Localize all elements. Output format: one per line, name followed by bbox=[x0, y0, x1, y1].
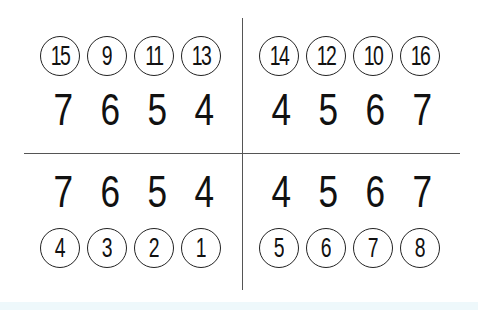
bottom-left-digit-row: 7 6 5 4 bbox=[40, 170, 228, 214]
digit: 5 bbox=[305, 88, 352, 132]
top-left-circled-row: 15 9 11 13 bbox=[40, 36, 228, 76]
circled-number: 15 bbox=[40, 36, 80, 76]
circled-number: 1 bbox=[181, 228, 221, 268]
digit: 5 bbox=[134, 170, 181, 214]
bottom-right-circled-row: 5 6 7 8 bbox=[259, 228, 447, 268]
circled-number: 13 bbox=[181, 36, 221, 76]
top-right-digit-row: 4 5 6 7 bbox=[258, 88, 446, 132]
digit: 4 bbox=[181, 88, 228, 132]
top-right-circled-row: 14 12 10 16 bbox=[259, 36, 447, 76]
digit: 5 bbox=[305, 170, 352, 214]
circled-number: 16 bbox=[400, 36, 440, 76]
digit: 6 bbox=[87, 170, 134, 214]
digit: 7 bbox=[40, 88, 87, 132]
circled-number: 10 bbox=[353, 36, 393, 76]
digit: 7 bbox=[399, 170, 446, 214]
digit: 7 bbox=[399, 88, 446, 132]
circled-number: 11 bbox=[134, 36, 174, 76]
circled-number: 4 bbox=[40, 228, 80, 268]
circled-number: 7 bbox=[353, 228, 393, 268]
horizontal-divider bbox=[24, 153, 460, 154]
vertical-divider bbox=[242, 18, 243, 290]
bottom-right-digit-row: 4 5 6 7 bbox=[258, 170, 446, 214]
digit: 4 bbox=[258, 170, 305, 214]
top-left-digit-row: 7 6 5 4 bbox=[40, 88, 228, 132]
circled-number: 3 bbox=[87, 228, 127, 268]
digit: 6 bbox=[352, 88, 399, 132]
bottom-strip bbox=[0, 302, 478, 310]
circled-number: 12 bbox=[306, 36, 346, 76]
circled-number: 6 bbox=[306, 228, 346, 268]
digit: 4 bbox=[181, 170, 228, 214]
circled-number: 2 bbox=[134, 228, 174, 268]
digit: 7 bbox=[40, 170, 87, 214]
digit: 6 bbox=[352, 170, 399, 214]
circled-number: 14 bbox=[259, 36, 299, 76]
bottom-left-circled-row: 4 3 2 1 bbox=[40, 228, 228, 268]
circled-number: 5 bbox=[259, 228, 299, 268]
circled-number: 8 bbox=[400, 228, 440, 268]
digit: 6 bbox=[87, 88, 134, 132]
digit: 4 bbox=[258, 88, 305, 132]
digit: 5 bbox=[134, 88, 181, 132]
circled-number: 9 bbox=[87, 36, 127, 76]
